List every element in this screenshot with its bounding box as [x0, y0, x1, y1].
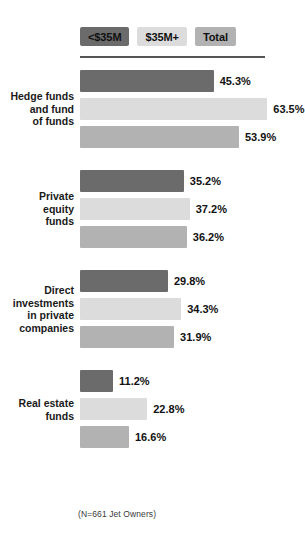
bar-row: 53.9%: [80, 126, 305, 148]
bar: [80, 370, 113, 392]
bar-row: 22.8%: [80, 398, 305, 420]
bar-group-bars: 45.3%63.5%53.9%: [80, 70, 305, 148]
chart-legend: <$35M $35M+ Total: [80, 27, 236, 46]
bar-value-label: 16.6%: [135, 431, 166, 443]
chart-footnote: (N=661 Jet Owners): [78, 509, 156, 519]
bar: [80, 198, 190, 220]
bar: [80, 398, 147, 420]
bar: [80, 98, 267, 120]
legend-item-total: Total: [195, 27, 236, 46]
chart-plot-area: Hedge fundsand fundof funds45.3%63.5%53.…: [0, 70, 305, 470]
category-label-line: Real estate: [19, 397, 74, 409]
category-label-line: Direct: [44, 284, 74, 296]
legend-item-lt-35m: <$35M: [80, 27, 129, 46]
category-label: Real estatefunds: [0, 397, 74, 422]
category-label-line: funds: [45, 215, 74, 227]
bar: [80, 426, 129, 448]
bar-value-label: 31.9%: [180, 331, 211, 343]
bar: [80, 170, 184, 192]
bar-value-label: 34.3%: [187, 303, 218, 315]
bar-row: 36.2%: [80, 226, 305, 248]
bar-value-label: 11.2%: [119, 375, 150, 387]
category-label-line: funds: [45, 409, 74, 421]
bar-value-label: 29.8%: [174, 275, 205, 287]
bar-group: Real estatefunds11.2%22.8%16.6%: [0, 370, 305, 448]
category-label: Privateequityfunds: [0, 190, 74, 228]
bar-row: 63.5%: [80, 98, 305, 120]
bar-group: Directinvestmentsin privatecompanies29.8…: [0, 270, 305, 348]
bar: [80, 126, 239, 148]
grouped-bar-chart: <$35M $35M+ Total Hedge fundsand fundof …: [0, 0, 305, 538]
bar-row: 35.2%: [80, 170, 305, 192]
bar-group-bars: 11.2%22.8%16.6%: [80, 370, 305, 448]
bar: [80, 326, 174, 348]
bar: [80, 70, 214, 92]
bar-row: 29.8%: [80, 270, 305, 292]
category-label-line: of funds: [33, 115, 74, 127]
category-label-line: Hedge funds: [10, 90, 74, 102]
bar-group: Privateequityfunds35.2%37.2%36.2%: [0, 170, 305, 248]
category-label-line: Private: [39, 190, 74, 202]
bar-value-label: 53.9%: [245, 131, 276, 143]
category-label: Directinvestmentsin privatecompanies: [0, 284, 74, 334]
bar-value-label: 22.8%: [153, 403, 184, 415]
category-label-line: companies: [19, 322, 74, 334]
bar: [80, 298, 181, 320]
bar-row: 34.3%: [80, 298, 305, 320]
category-label-line: equity: [43, 203, 74, 215]
bar-group-bars: 29.8%34.3%31.9%: [80, 270, 305, 348]
category-label-line: and fund: [30, 103, 74, 115]
category-label-line: in private: [27, 309, 74, 321]
category-label: Hedge fundsand fundof funds: [0, 90, 74, 128]
bar-value-label: 35.2%: [190, 175, 221, 187]
legend-divider: [80, 56, 265, 58]
bar-group: Hedge fundsand fundof funds45.3%63.5%53.…: [0, 70, 305, 148]
bar-row: 45.3%: [80, 70, 305, 92]
bar: [80, 226, 187, 248]
bar-group-bars: 35.2%37.2%36.2%: [80, 170, 305, 248]
bar-value-label: 45.3%: [220, 75, 251, 87]
category-label-line: investments: [13, 297, 74, 309]
bar-row: 31.9%: [80, 326, 305, 348]
bar-value-label: 36.2%: [193, 231, 224, 243]
bar-value-label: 37.2%: [196, 203, 227, 215]
bar-row: 37.2%: [80, 198, 305, 220]
bar-row: 16.6%: [80, 426, 305, 448]
legend-item-35m-plus: $35M+: [137, 27, 186, 46]
bar: [80, 270, 168, 292]
bar-value-label: 63.5%: [273, 103, 304, 115]
bar-row: 11.2%: [80, 370, 305, 392]
